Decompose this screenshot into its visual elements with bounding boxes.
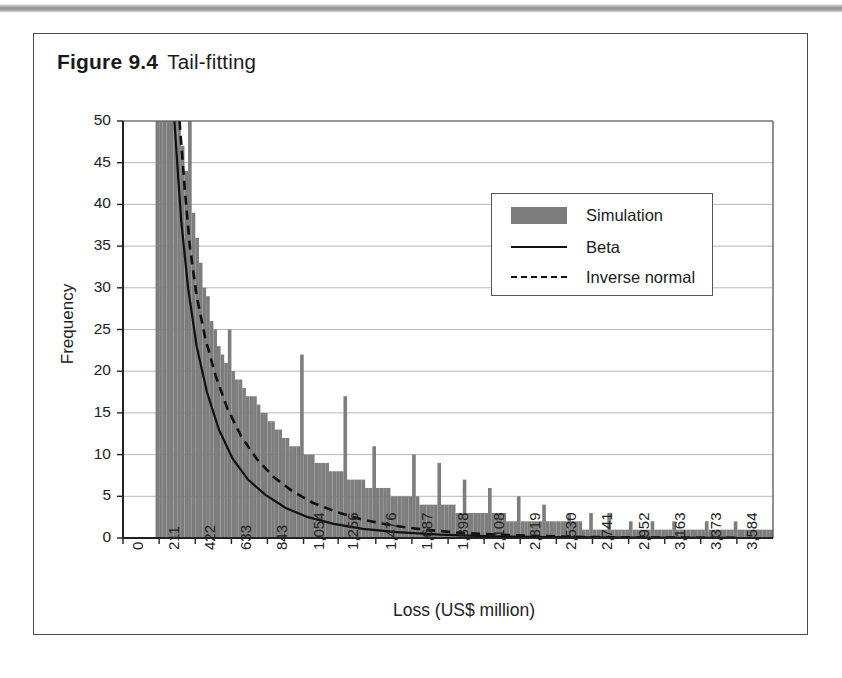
- legend-label-simulation: Simulation: [586, 206, 663, 225]
- x-tick-label: 3,163: [671, 512, 688, 550]
- x-tick-label: 1,898: [454, 512, 471, 550]
- legend-label-beta: Beta: [586, 238, 620, 257]
- x-tick-label: 1,687: [418, 512, 435, 550]
- legend-swatch-simulation: [508, 204, 570, 226]
- y-tick-label: 10: [69, 445, 111, 463]
- legend-item-simulation: Simulation: [492, 200, 712, 230]
- y-tick-label: 40: [69, 194, 111, 212]
- x-tick-label: 2,741: [598, 512, 615, 550]
- x-tick-label: 422: [201, 525, 218, 550]
- x-tick-label: 2,319: [526, 512, 543, 550]
- x-tick-label: 1,054: [310, 512, 327, 550]
- y-tick-label: 50: [69, 111, 111, 129]
- x-axis-title: Loss (US$ million): [334, 600, 594, 621]
- chart-legend: Simulation Beta Inverse normal: [491, 193, 713, 296]
- x-tick-label: 1,476: [382, 512, 399, 550]
- legend-label-inverse-normal: Inverse normal: [586, 268, 695, 287]
- x-tick-label: 3,373: [707, 512, 724, 550]
- y-tick-label: 15: [69, 403, 111, 421]
- x-tick-label: 2,530: [562, 512, 579, 550]
- figure-container: Figure 9.4Tail-fitting Frequency Loss (U…: [33, 33, 808, 635]
- y-tick-label: 5: [69, 486, 111, 504]
- x-tick-label: 1,256: [344, 512, 361, 550]
- x-tick-label: 2,952: [635, 512, 652, 550]
- x-tick-label: 211: [165, 526, 182, 550]
- legend-item-inverse-normal: Inverse normal: [492, 262, 712, 292]
- page-scan-band: [0, 4, 842, 13]
- y-tick-label: 30: [69, 278, 111, 296]
- y-tick-label: 25: [69, 320, 111, 338]
- chart-plot: Frequency Loss (US$ million) 05101520253…: [34, 34, 809, 636]
- y-tick-label: 35: [69, 236, 111, 254]
- legend-item-beta: Beta: [492, 232, 712, 262]
- x-tick-label: 843: [273, 525, 290, 550]
- x-tick-label: 3,584: [743, 512, 760, 550]
- x-tick-label: 2,108: [490, 512, 507, 550]
- x-tick-label: 0: [129, 542, 146, 550]
- y-tick-label: 0: [69, 528, 111, 546]
- y-tick-label: 45: [69, 153, 111, 171]
- x-tick-label: 633: [237, 525, 254, 550]
- legend-line-inverse-normal-icon: [508, 266, 570, 288]
- legend-line-beta-icon: [508, 236, 570, 258]
- y-tick-label: 20: [69, 361, 111, 379]
